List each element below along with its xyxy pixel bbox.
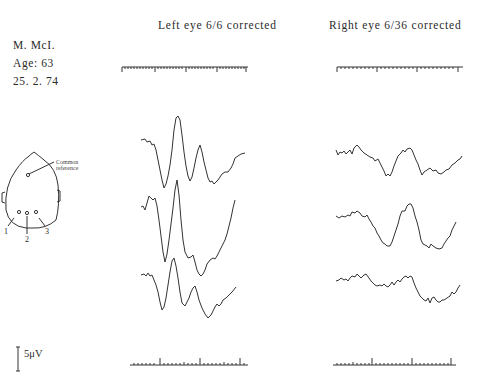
- electrode-label-2: 2: [25, 235, 29, 244]
- vep-figure: [0, 0, 493, 388]
- electrode-label-1: 1: [4, 227, 8, 236]
- head-diagram: [2, 152, 60, 234]
- left-trace-3: [141, 258, 236, 318]
- calibration-bar: [16, 347, 20, 371]
- left-ear: [2, 192, 5, 203]
- left-trace-2: [141, 180, 235, 276]
- common-reference-label: Common reference: [56, 159, 78, 171]
- right-top-time-scale: [337, 67, 463, 72]
- right-trace-1: [336, 145, 462, 176]
- left-bottom-time-scale: [130, 358, 248, 365]
- electrode-label-3: 3: [45, 227, 49, 236]
- electrode-2: [25, 211, 28, 214]
- calibration-label: 5μV: [24, 348, 42, 359]
- right-trace-2: [336, 204, 456, 249]
- right-bottom-time-scale: [333, 358, 456, 365]
- right-trace-3: [336, 274, 460, 303]
- electrode-1: [17, 210, 20, 213]
- left-trace-1: [141, 116, 245, 188]
- left-top-time-scale: [122, 67, 248, 72]
- reference-pointer: [29, 162, 54, 174]
- electrode-3: [34, 210, 37, 213]
